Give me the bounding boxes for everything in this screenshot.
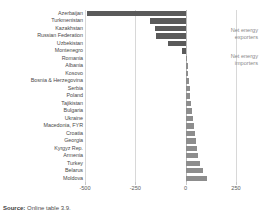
- axis-tick-label: 250: [231, 185, 240, 191]
- bar-montenegro: [182, 48, 186, 53]
- bar-romania: [186, 56, 188, 61]
- bar-albania: [186, 63, 188, 68]
- exporters-annotation-line2: exporters: [196, 34, 258, 41]
- bar-bosnia-herzegovina: [186, 78, 189, 83]
- bar-row: [85, 17, 246, 24]
- category-label: Romania: [62, 55, 83, 62]
- exporters-annotation-line1: Net energy: [196, 27, 258, 34]
- energy-balance-bar-chart: AzerbaijanTurkmenistanKazakhstanRussian …: [0, 0, 266, 219]
- bar-kyrgyz-rep: [186, 146, 198, 151]
- bar-belarus: [186, 168, 203, 173]
- bar-ukraine: [186, 116, 193, 121]
- bar-bulgaria: [186, 108, 192, 113]
- bar-russian-federation: [156, 33, 186, 38]
- category-label: Armenia: [63, 152, 83, 159]
- axis-tick-label: 0: [184, 185, 187, 191]
- category-label: Turkmenistan: [51, 17, 83, 24]
- bar-row: [85, 152, 246, 159]
- bar-row: [85, 175, 246, 182]
- category-label: Ukraine: [65, 115, 83, 122]
- category-label: Kosovo: [65, 70, 83, 77]
- bar-azerbaijan: [87, 11, 186, 16]
- bar-row: [85, 10, 246, 17]
- bar-row: [85, 100, 246, 107]
- category-label: Kyrgyz Rep.: [54, 145, 83, 152]
- bar-turkmenistan: [150, 18, 185, 23]
- bar-row: [85, 115, 246, 122]
- bar-row: [85, 145, 246, 152]
- bar-row: [85, 122, 246, 129]
- bar-turkey: [186, 161, 200, 166]
- category-label: Azerbaijan: [58, 10, 83, 17]
- bar-row: [85, 40, 246, 47]
- bar-croatia: [186, 131, 195, 136]
- category-label: Montenegro: [55, 47, 83, 54]
- category-label: Kazakhstan: [55, 25, 83, 32]
- bar-armenia: [186, 153, 199, 158]
- bar-row: [85, 107, 246, 114]
- category-label: Turkey: [67, 160, 83, 167]
- bar-uzbekistan: [168, 41, 186, 46]
- bar-poland: [186, 93, 191, 98]
- bar-kazakhstan: [155, 26, 186, 31]
- category-label: Albania: [65, 62, 83, 69]
- bar-moldova: [186, 176, 207, 181]
- axis-tick-label: -500: [79, 185, 90, 191]
- source-note: Source: Online table 3.9.: [3, 205, 71, 211]
- category-label: Uzbekistan: [57, 40, 83, 47]
- category-label: Bulgaria: [64, 107, 83, 114]
- bar-row: [85, 92, 246, 99]
- bar-serbia: [186, 86, 190, 91]
- importers-annotation-line2: importers: [196, 60, 258, 67]
- axis-tick-label: -250: [130, 185, 141, 191]
- bar-georgia: [186, 138, 196, 143]
- category-label: Belarus: [65, 167, 83, 174]
- category-axis-labels: AzerbaijanTurkmenistanKazakhstanRussian …: [0, 10, 83, 182]
- bar-row: [85, 85, 246, 92]
- category-label: Tajikistan: [61, 100, 83, 107]
- bar-kosovo: [186, 71, 189, 76]
- source-label: Source:: [3, 205, 25, 211]
- category-label: Poland: [67, 92, 84, 99]
- net-energy-importers-annotation: Net energy importers: [196, 53, 258, 67]
- category-label: Croatia: [66, 130, 83, 137]
- category-label: Bosnia & Herzegovina: [31, 77, 83, 84]
- bar-tajikistan: [186, 101, 192, 106]
- bar-row: [85, 70, 246, 77]
- net-energy-exporters-annotation: Net energy exporters: [196, 27, 258, 41]
- category-label: Serbia: [68, 85, 83, 92]
- importers-annotation-line1: Net energy: [196, 53, 258, 60]
- bar-row: [85, 167, 246, 174]
- category-label: Russian Federation: [37, 32, 83, 39]
- bar-macedonia-fyr: [186, 123, 194, 128]
- bar-row: [85, 77, 246, 84]
- category-label: Macedonia, FYR: [44, 122, 83, 129]
- bar-row: [85, 160, 246, 167]
- bar-row: [85, 137, 246, 144]
- bar-row: [85, 130, 246, 137]
- category-label: Moldova: [63, 175, 83, 182]
- source-text: Online table 3.9.: [27, 205, 71, 211]
- value-axis: -500-2500250: [85, 182, 246, 196]
- category-label: Georgia: [64, 137, 83, 144]
